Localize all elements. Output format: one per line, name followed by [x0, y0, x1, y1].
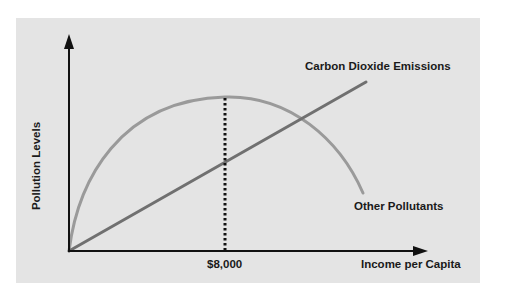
- x-axis-arrow-icon: [413, 246, 428, 256]
- co2-series-label: Carbon Dioxide Emissions: [305, 60, 451, 72]
- other-series-label: Other Pollutants: [354, 200, 443, 212]
- y-axis-label: Pollution Levels: [30, 122, 42, 210]
- x-axis-label: Income per Capita: [361, 258, 461, 270]
- x-tick-label: $8,000: [207, 258, 242, 270]
- co2-emissions-line: [69, 82, 366, 251]
- y-axis-arrow-icon: [64, 34, 74, 49]
- other-pollutants-curve: [69, 97, 363, 251]
- chart-plot: [0, 0, 510, 301]
